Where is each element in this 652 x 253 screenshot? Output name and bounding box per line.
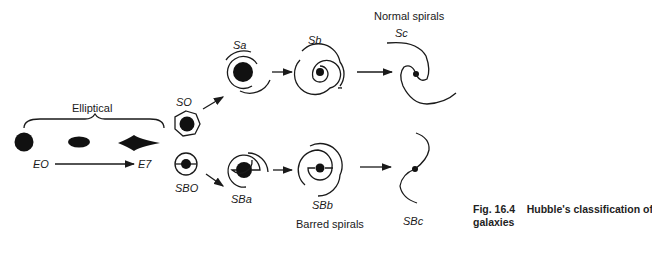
arrow-sb0-sba [206,174,223,186]
arrow-s0-sa [203,97,223,109]
hubble-diagram: Elliptical EO E7 SO SBO Sa Sb Normal spi… [0,0,652,253]
galaxy-e7 [118,135,160,151]
label-sc: Sc [395,27,408,39]
heading-elliptical: Elliptical [72,102,112,114]
label-e7: E7 [138,158,152,170]
label-sa: Sa [233,39,246,51]
label-e0: EO [33,158,49,170]
galaxy-sb0-core [181,159,191,169]
label-sba: SBa [231,193,252,205]
galaxy-sc-arm-2 [387,43,429,81]
elliptical-brace [24,114,164,128]
galaxy-e0 [15,133,34,152]
galaxy-sa-arm-3 [240,80,270,93]
galaxy-e4 [68,137,90,148]
galaxy-sa-arm-2 [226,51,251,60]
galaxy-sba-core [236,162,252,178]
galaxy-sbb-core [316,164,325,173]
galaxy-sb-core [316,68,324,76]
galaxy-sbc-arm-1 [415,133,429,169]
galaxy-sbc-arm-2 [400,169,417,203]
heading-normal-spirals: Normal spirals [374,10,445,22]
galaxy-sbb-arm-2 [310,144,342,196]
label-sbb: SBb [312,199,333,211]
galaxy-s0-core [180,117,195,132]
label-sbc: SBc [403,215,424,227]
label-sb0: SBO [175,182,199,194]
figure-caption-line2: galaxies [473,216,515,228]
galaxy-sb-arm-1 [294,60,340,95]
heading-barred-spirals: Barred spirals [296,218,364,230]
figure-caption-line1: Fig. 16.4 Hubble's classification of [473,203,652,215]
label-s0: SO [176,96,192,108]
galaxy-sa-core [233,62,253,82]
